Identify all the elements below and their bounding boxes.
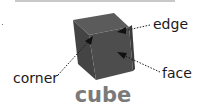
label-face: face xyxy=(162,66,192,80)
label-corner: corner xyxy=(13,71,58,85)
label-edge: edge xyxy=(153,17,188,31)
figure-title: cube xyxy=(0,84,206,106)
